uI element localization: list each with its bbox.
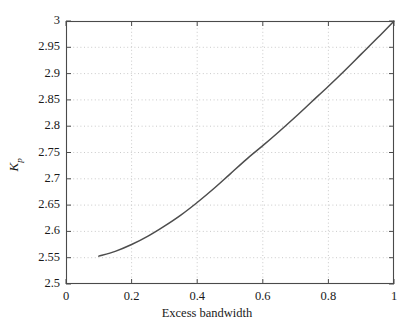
chart-figure: 2.52.552.62.652.72.752.82.852.92.95300.2… [0, 0, 414, 329]
y-tick-label: 2.7 [44, 171, 60, 186]
y-tick-label: 2.75 [38, 145, 60, 160]
y-tick-label: 2.8 [44, 118, 60, 133]
y-tick-label: 2.65 [38, 197, 60, 212]
x-tick-label: 0.8 [303, 289, 353, 304]
y-axis-label-subscript: p [14, 158, 24, 163]
x-axis-label: Excess bandwidth [0, 306, 414, 321]
x-tick-label: 0.4 [172, 289, 222, 304]
plot-background [66, 21, 394, 284]
x-tick-label: 1 [369, 289, 414, 304]
chart-plot-area [0, 0, 414, 329]
y-tick-label: 2.95 [38, 39, 60, 54]
y-tick-label: 2.85 [38, 92, 60, 107]
x-tick-label: 0 [41, 289, 91, 304]
y-axis-label-base: K [6, 163, 21, 172]
y-tick-label: 2.55 [38, 250, 60, 265]
x-tick-label: 0.6 [238, 289, 288, 304]
x-tick-label: 0.2 [107, 289, 157, 304]
y-tick-label: 2.6 [44, 223, 60, 238]
y-tick-label: 3 [54, 13, 60, 28]
y-axis-label: Kp [6, 152, 24, 178]
y-tick-label: 2.9 [44, 66, 60, 81]
